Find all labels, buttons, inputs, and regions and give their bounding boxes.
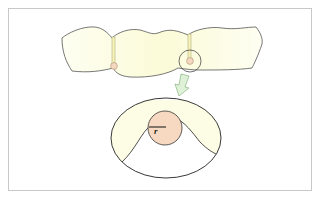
caption [110,195,320,202]
detail-view: r [100,98,230,178]
bridge-diagram: r [0,0,323,202]
arrow-icon [175,74,189,96]
radius-label: r [154,126,158,136]
bridge-outline [62,27,262,77]
